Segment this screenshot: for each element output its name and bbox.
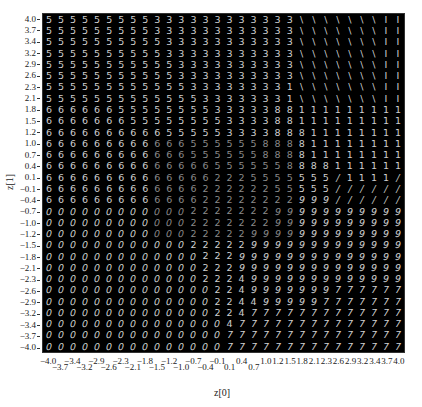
digit-cell: 5: [67, 93, 79, 104]
digit-cell: 6: [127, 172, 139, 183]
digit-cell: 5: [139, 59, 151, 70]
digit-cell: 3: [187, 70, 199, 81]
digit-cell: 8: [296, 149, 308, 160]
digit-cell: 6: [175, 172, 187, 183]
digit-cell: 7: [391, 329, 405, 340]
digit-cell: 3: [224, 93, 236, 104]
digit-cell: 6: [67, 138, 79, 149]
digit-cell: 3: [163, 25, 175, 36]
digit-cell: 7: [391, 318, 405, 329]
digit-cell: 6: [187, 160, 199, 171]
digit-cell: 6: [175, 183, 187, 194]
digit-cell: \: [368, 82, 380, 93]
digit-cell: 1: [308, 149, 320, 160]
digit-cell: 2: [199, 194, 211, 205]
digit-cell: 5: [79, 48, 91, 59]
digit-cell: I: [392, 93, 404, 104]
digit-cell: I: [392, 48, 404, 59]
y-tick-label: −4.0: [20, 342, 40, 352]
digit-cell: 2: [224, 217, 236, 228]
x-tick-label: 0.7: [248, 362, 259, 372]
digit-cell: 6: [115, 172, 127, 183]
digit-cell: 2: [224, 273, 236, 284]
digit-cell: 3: [248, 59, 260, 70]
digit-cell: \: [368, 25, 380, 36]
digit-cell: 5: [187, 127, 199, 138]
digit-cell: \: [320, 82, 332, 93]
digit-cell: I: [392, 70, 404, 81]
digit-cell: 2: [260, 183, 272, 194]
digit-cell: 3: [224, 104, 236, 115]
digit-cell: 5: [115, 59, 127, 70]
digit-cell: 1: [380, 127, 392, 138]
digit-cell: 6: [175, 149, 187, 160]
digit-cell: 3: [211, 82, 223, 93]
digit-cell: 8: [272, 127, 284, 138]
digit-cell: \: [368, 59, 380, 70]
digit-cell: 5: [115, 70, 127, 81]
y-tick-label: −0.1: [20, 184, 40, 194]
digit-cell: 3: [272, 59, 284, 70]
digit-cell: 2: [248, 194, 260, 205]
digit-cell: 2: [211, 228, 223, 239]
digit-cell: \: [296, 14, 308, 25]
digit-cell: 5: [151, 115, 163, 126]
digit-cell: 5: [43, 93, 55, 104]
digit-cell: 6: [91, 172, 103, 183]
digit-cell: 6: [175, 138, 187, 149]
digit-cell: 3: [199, 37, 211, 48]
digit-cell: 6: [55, 104, 67, 115]
digit-cell: 3: [175, 48, 187, 59]
digit-cell: 6: [79, 127, 91, 138]
digit-cell: 3: [199, 14, 211, 25]
digit-cell: /: [391, 183, 405, 194]
digit-cell: 6: [127, 127, 139, 138]
digit-cell: 5: [115, 82, 127, 93]
digit-cell: 2: [211, 217, 223, 228]
digit-cell: 5: [55, 82, 67, 93]
digit-cell: 1: [344, 104, 356, 115]
digit-cell: 1: [284, 82, 296, 93]
digit-cell: 5: [115, 37, 127, 48]
digit-cell: 5: [127, 93, 139, 104]
digit-cell: 6: [151, 172, 163, 183]
digit-cell: 3: [236, 48, 248, 59]
digit-cell: 3: [248, 48, 260, 59]
digit-cell: 1: [356, 138, 368, 149]
digit-cell: 6: [79, 160, 91, 171]
digit-cell: 6: [67, 194, 79, 205]
digit-cell: 5: [151, 59, 163, 70]
digit-cell: 6: [151, 183, 163, 194]
digit-cell: 5: [103, 59, 115, 70]
digit-cell: 6: [163, 149, 175, 160]
digit-cell: \: [368, 37, 380, 48]
digit-cell: 3: [260, 127, 272, 138]
digit-cell: \: [320, 37, 332, 48]
digit-cell: 6: [151, 127, 163, 138]
digit-cell: 1: [332, 160, 344, 171]
digit-cell: \: [344, 59, 356, 70]
digit-cell: 2: [260, 217, 272, 228]
digit-cell: 8: [272, 104, 284, 115]
digit-cell: 2: [224, 239, 236, 250]
digit-cell: 3: [224, 25, 236, 36]
digit-cell: 3: [224, 59, 236, 70]
digit-cell: 3: [284, 70, 296, 81]
digit-cell: 3: [248, 115, 260, 126]
digit-cell: 7: [391, 307, 405, 318]
digit-cell: \: [356, 70, 368, 81]
digit-cell: 2: [199, 273, 211, 284]
digit-cell: 5: [91, 70, 103, 81]
digit-cell: 6: [55, 127, 67, 138]
digit-cell: 5: [199, 149, 211, 160]
digit-cell: 1: [320, 104, 332, 115]
digit-cell: 5: [163, 127, 175, 138]
digit-cell: 1: [332, 127, 344, 138]
digit-cell: 5: [211, 115, 223, 126]
digit-cell: 3: [187, 82, 199, 93]
digit-cell: 5: [67, 82, 79, 93]
digit-cell: 5: [43, 48, 55, 59]
digit-cell: 3: [224, 14, 236, 25]
digit-cell: \: [320, 25, 332, 36]
digit-cell: 6: [43, 183, 55, 194]
